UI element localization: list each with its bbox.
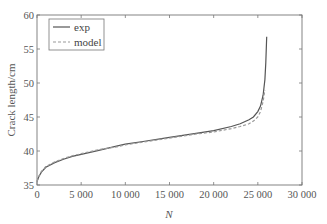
x-tick-labels: 05 00010 00015 00020 00025 00030 000: [34, 189, 316, 200]
x-axis-label: N: [164, 208, 173, 220]
y-tick-label: 50: [24, 78, 35, 89]
y-tick-labels: 354045505560: [24, 10, 35, 191]
y-tick-label: 45: [24, 112, 35, 123]
series-exp-line: [37, 37, 267, 182]
x-tick-label: 25 000: [243, 189, 272, 200]
y-tick-label: 40: [24, 146, 35, 157]
y-tick-label: 55: [24, 44, 35, 55]
x-tick-label: 10 000: [111, 189, 140, 200]
y-tick-label: 35: [24, 180, 35, 191]
y-axis-label: Crack length/cm: [5, 63, 17, 136]
x-tick-label: 20 000: [199, 189, 228, 200]
legend: exp model: [49, 19, 104, 50]
legend-exp-label: exp: [74, 21, 90, 33]
chart: 05 00010 00015 00020 00025 00030 000 354…: [0, 0, 327, 224]
x-tick-label: 5 000: [69, 189, 93, 200]
series-model-line: [37, 90, 265, 182]
x-tick-label: 30 000: [288, 189, 317, 200]
x-tick-label: 15 000: [155, 189, 184, 200]
legend-model-label: model: [74, 36, 102, 48]
y-tick-label: 60: [24, 10, 35, 21]
x-tick-label: 0: [34, 189, 39, 200]
curves: [37, 37, 267, 182]
